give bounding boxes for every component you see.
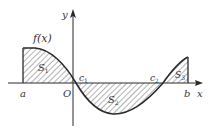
point-c2-label: c2 [150,73,159,84]
point-a-label: a [20,88,26,99]
y-axis-label: y [61,9,68,20]
region-s2 [76,83,163,114]
area-under-curve-diagram: f(x) y x O a b c1 c2 S1 S2 S3 [0,0,210,133]
point-b-label: b [184,88,190,99]
function-label: f(x) [32,32,52,45]
x-axis-label: x [197,88,203,99]
x-axis-arrow-icon [195,80,203,86]
origin-label: O [63,88,71,99]
diagram-canvas: f(x) y x O a b c1 c2 S1 S2 S3 [0,0,210,133]
point-c1-label: c1 [79,73,88,84]
